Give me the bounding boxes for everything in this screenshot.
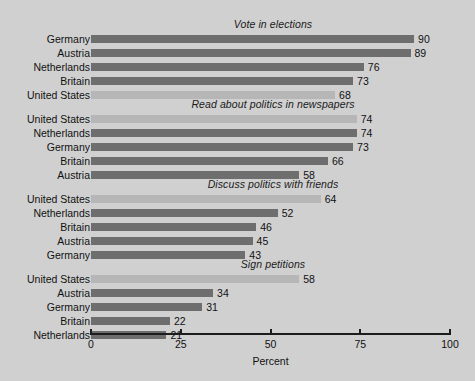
bar-track: 73: [91, 77, 450, 85]
bar-row: Britain66: [0, 154, 475, 168]
bar-row: Netherlands52: [0, 206, 475, 220]
bar-value-label: 76: [364, 60, 380, 74]
bar-value-label: 64: [321, 192, 337, 206]
bar: [91, 49, 411, 57]
bar-track: 74: [91, 115, 450, 123]
x-axis-tick: [359, 329, 361, 335]
bar-row: United States64: [0, 192, 475, 206]
bar: [91, 303, 202, 311]
bar-track: 22: [91, 317, 450, 325]
bar-row: Austria34: [0, 286, 475, 300]
bar-category-label: United States: [27, 272, 90, 286]
bar: [91, 129, 357, 137]
panel-title: Vote in elections: [0, 18, 455, 30]
bar: [91, 157, 328, 165]
bar-value-label: 73: [353, 74, 369, 88]
x-axis-tick-label: 50: [265, 338, 277, 350]
bar-category-label: Britain: [60, 220, 90, 234]
panel-title: Sign petitions: [0, 258, 455, 270]
bar-category-label: Netherlands: [33, 126, 90, 140]
bar-category-label: Britain: [60, 314, 90, 328]
bar-track: 31: [91, 303, 450, 311]
panel-title: Discuss politics with friends: [0, 178, 455, 190]
x-axis-tick-label: 75: [354, 338, 366, 350]
chart-root: Vote in electionsGermany90Austria89Nethe…: [0, 0, 475, 381]
bar-row: Germany73: [0, 140, 475, 154]
bar-row: Britain22: [0, 314, 475, 328]
bar: [91, 143, 353, 151]
bar-category-label: Germany: [47, 32, 90, 46]
bar-value-label: 31: [202, 300, 218, 314]
bar-track: 58: [91, 275, 450, 283]
bar-value-label: 34: [213, 286, 229, 300]
bar-track: 89: [91, 49, 450, 57]
bar-value-label: 58: [299, 272, 315, 286]
bar-row: United States74: [0, 112, 475, 126]
bar: [91, 289, 213, 297]
bar: [91, 275, 299, 283]
bar-value-label: 73: [353, 140, 369, 154]
bar-row: Britain46: [0, 220, 475, 234]
bar-value-label: 74: [357, 112, 373, 126]
bar-category-label: Netherlands: [33, 206, 90, 220]
bar-value-label: 74: [357, 126, 373, 140]
bar-row: Britain73: [0, 74, 475, 88]
bar-value-label: 52: [278, 206, 294, 220]
bar: [91, 209, 278, 217]
bar: [91, 63, 364, 71]
x-axis-tick: [449, 329, 451, 335]
bar-row: Netherlands76: [0, 60, 475, 74]
bar-value-label: 89: [411, 46, 427, 60]
panel-title: Read about politics in newspapers: [0, 98, 455, 110]
bar-category-label: Britain: [60, 154, 90, 168]
bar-track: 66: [91, 157, 450, 165]
bar: [91, 237, 253, 245]
bar-category-label: United States: [27, 112, 90, 126]
bar: [91, 223, 256, 231]
bar-row: United States58: [0, 272, 475, 286]
bar-category-label: Austria: [57, 46, 90, 60]
x-axis-tick-label: 25: [175, 338, 187, 350]
bar-value-label: 22: [170, 314, 186, 328]
bar-row: Germany90: [0, 32, 475, 46]
bar-category-label: Austria: [57, 286, 90, 300]
bar-track: 90: [91, 35, 450, 43]
bar-category-label: Germany: [47, 300, 90, 314]
bar-track: 45: [91, 237, 450, 245]
bar-category-label: Germany: [47, 140, 90, 154]
bar-track: 46: [91, 223, 450, 231]
bar-row: Germany31: [0, 300, 475, 314]
bar-category-label: Netherlands: [33, 60, 90, 74]
bar: [91, 77, 353, 85]
x-axis-title: Percent: [91, 355, 450, 367]
bar-category-label: Britain: [60, 74, 90, 88]
bar: [91, 317, 170, 325]
bar: [91, 195, 321, 203]
bar-value-label: 90: [414, 32, 430, 46]
x-axis-tick-label: 100: [441, 338, 459, 350]
bar-value-label: 45: [253, 234, 269, 248]
bar: [91, 35, 414, 43]
bar-value-label: 46: [256, 220, 272, 234]
bar-row: Netherlands74: [0, 126, 475, 140]
panel-rows: United States74Netherlands74Germany73Bri…: [0, 112, 475, 182]
x-axis-tick: [270, 329, 272, 335]
bar-value-label: 66: [328, 154, 344, 168]
bar-row: Austria45: [0, 234, 475, 248]
x-axis-tick: [90, 329, 92, 335]
bar-track: 34: [91, 289, 450, 297]
bar-track: 73: [91, 143, 450, 151]
x-axis-tick: [180, 329, 182, 335]
bar: [91, 115, 357, 123]
x-axis: 0255075100Percent: [0, 333, 475, 381]
bar-track: 64: [91, 195, 450, 203]
panel-rows: United States64Netherlands52Britain46Aus…: [0, 192, 475, 262]
bar-track: 74: [91, 129, 450, 137]
bar-category-label: Austria: [57, 234, 90, 248]
panel-rows: Germany90Austria89Netherlands76Britain73…: [0, 32, 475, 102]
bar-category-label: United States: [27, 192, 90, 206]
x-axis-tick-label: 0: [88, 338, 94, 350]
bar-row: Austria89: [0, 46, 475, 60]
bar-track: 76: [91, 63, 450, 71]
bar-track: 52: [91, 209, 450, 217]
